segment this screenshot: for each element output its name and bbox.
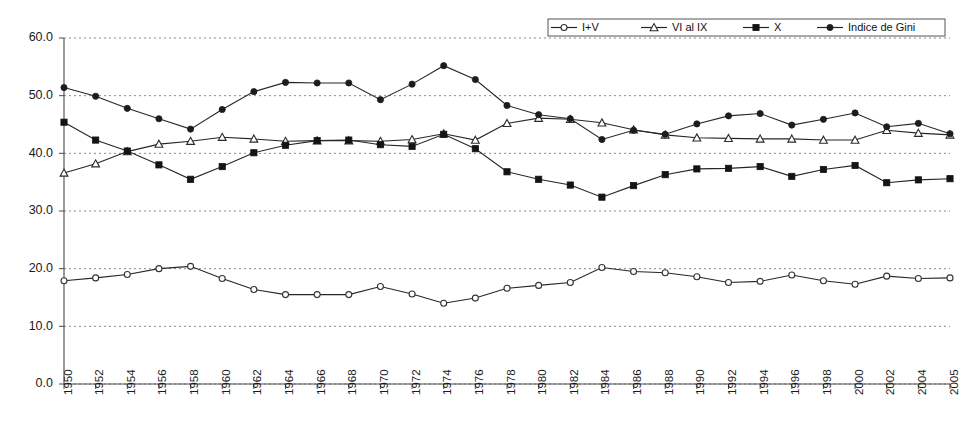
x-axis-tick-label: 1968: [346, 369, 358, 395]
x-axis-tick-label: 1952: [93, 369, 105, 395]
data-point-marker: [599, 194, 605, 200]
data-point-marker: [725, 113, 731, 119]
data-point-marker: [187, 126, 193, 132]
y-axis-tick-label: 40.0: [29, 146, 53, 160]
data-point-marker: [884, 124, 890, 130]
data-point-marker: [852, 162, 858, 168]
data-point-marker: [757, 163, 763, 169]
data-point-marker: [251, 286, 257, 292]
data-point-marker: [789, 122, 795, 128]
x-axis-tick-label: 1962: [251, 369, 263, 395]
chart-container: 0.010.020.030.040.050.060.0 195019521954…: [0, 0, 967, 444]
data-point-marker: [377, 142, 383, 148]
data-point-marker: [662, 270, 668, 276]
legend-item-label: X: [774, 21, 782, 33]
data-point-marker: [567, 116, 573, 122]
data-point-marker: [187, 176, 193, 182]
data-point-marker: [947, 131, 953, 137]
x-axis-tick-label: 1996: [789, 369, 801, 395]
data-point-marker: [472, 146, 478, 152]
x-axis-ticks: 1950195219541956195819601962196419661968…: [62, 369, 960, 395]
data-point-marker: [504, 169, 510, 175]
data-point-marker: [156, 266, 162, 272]
data-point-marker: [630, 127, 636, 133]
legend-item-label: Indice de Gini: [848, 21, 915, 33]
x-axis-tick-label: 1964: [283, 369, 295, 395]
data-point-marker: [409, 143, 415, 149]
data-point-marker: [156, 116, 162, 122]
x-axis-tick-label: 2005: [948, 369, 960, 395]
x-axis-tick-label: 1994: [758, 369, 770, 395]
x-axis-tick-label: 1974: [441, 369, 453, 395]
data-point-marker: [504, 102, 510, 108]
data-point-marker: [219, 163, 225, 169]
data-point-marker: [377, 284, 383, 290]
data-point-marker: [219, 275, 225, 281]
data-point-marker: [947, 176, 953, 182]
x-axis-tick-label: 1998: [821, 369, 833, 395]
data-point-marker: [314, 292, 320, 298]
data-point-marker: [61, 278, 67, 284]
data-point-marker: [314, 138, 320, 144]
x-axis-tick-label: 1988: [663, 369, 675, 395]
x-axis-tick-label: 1956: [156, 369, 168, 395]
y-axis-tick-label: 20.0: [29, 261, 53, 275]
data-point-marker: [753, 24, 759, 30]
data-point-marker: [346, 292, 352, 298]
data-point-marker: [441, 131, 447, 137]
data-point-marker: [884, 180, 890, 186]
data-point-marker: [915, 120, 921, 126]
data-point-marker: [915, 275, 921, 281]
x-axis-tick-label: 1992: [726, 369, 738, 395]
data-point-marker: [124, 148, 130, 154]
x-axis-tick-label: 1970: [378, 369, 390, 395]
x-axis-tick-label: 1954: [125, 369, 137, 395]
x-axis-tick-label: 1976: [473, 369, 485, 395]
data-point-marker: [93, 275, 99, 281]
data-point-marker: [726, 280, 732, 286]
data-point-marker: [377, 97, 383, 103]
data-point-marker: [694, 166, 700, 172]
data-point-marker: [314, 80, 320, 86]
x-axis-tick-label: 1978: [505, 369, 517, 395]
data-point-marker: [282, 142, 288, 148]
y-axis-tick-label: 10.0: [29, 319, 53, 333]
data-point-marker: [441, 300, 447, 306]
x-axis-tick-label: 1990: [694, 369, 706, 395]
data-point-marker: [820, 116, 826, 122]
data-point-marker: [630, 183, 636, 189]
data-point-marker: [93, 93, 99, 99]
data-point-marker: [472, 76, 478, 82]
x-axis-tick-label: 1958: [188, 369, 200, 395]
data-point-marker: [536, 112, 542, 118]
data-point-marker: [662, 172, 668, 178]
y-axis-tick-label: 50.0: [29, 88, 53, 102]
data-point-marker: [536, 282, 542, 288]
x-axis-tick-label: 1986: [631, 369, 643, 395]
x-axis-tick-label: 1960: [220, 369, 232, 395]
data-point-marker: [852, 110, 858, 116]
y-axis-tick-label: 0.0: [36, 376, 53, 390]
data-point-marker: [61, 84, 67, 90]
data-point-marker: [884, 273, 890, 279]
data-point-marker: [662, 131, 668, 137]
legend-item-label: VI al IX: [672, 21, 708, 33]
data-point-marker: [694, 121, 700, 127]
x-axis-tick-label: 2000: [853, 369, 865, 395]
data-point-marker: [188, 263, 194, 269]
x-axis-tick-label: 1984: [599, 369, 611, 395]
data-point-marker: [346, 137, 352, 143]
data-point-marker: [947, 275, 953, 281]
data-point-marker: [915, 177, 921, 183]
chart-legend: I+VVI al IXXIndice de Gini: [548, 19, 945, 36]
data-point-marker: [757, 110, 763, 116]
x-axis-tick-label: 2002: [884, 369, 896, 395]
data-point-marker: [820, 166, 826, 172]
data-point-marker: [156, 162, 162, 168]
legend-item-label: I+V: [582, 21, 599, 33]
data-point-marker: [251, 89, 257, 95]
data-point-marker: [124, 271, 130, 277]
x-axis-tick-label: 1972: [410, 369, 422, 395]
x-axis-tick-label: 1982: [568, 369, 580, 395]
data-point-marker: [441, 63, 447, 69]
